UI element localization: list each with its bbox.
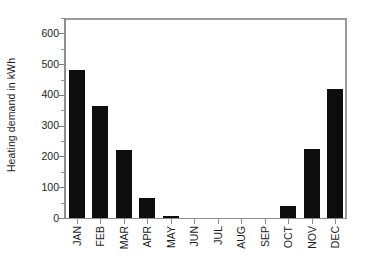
x-tick-label-text: OCT xyxy=(283,226,294,248)
x-tick-mark xyxy=(100,219,101,224)
x-tick-label-text: JUN xyxy=(189,226,200,246)
y-tick-label: 600 xyxy=(19,28,59,39)
x-tick-mark xyxy=(147,219,148,224)
x-tick-mark xyxy=(265,219,266,224)
x-tick-label-text: AUG xyxy=(236,226,247,249)
y-tick-label: 300 xyxy=(19,120,59,131)
bar-mar xyxy=(116,150,132,218)
x-tick-mark xyxy=(335,219,336,224)
x-tick-mark xyxy=(171,219,172,224)
y-axis-title-text: Heating demand in kWh xyxy=(5,58,17,172)
x-tick-label-jul: JUL xyxy=(211,226,225,262)
x-tick-label-text: DEC xyxy=(330,226,341,248)
x-tick-label-text: SEP xyxy=(260,226,271,247)
x-tick-label-text: JUL xyxy=(213,226,224,245)
bar-jan xyxy=(69,70,85,218)
y-tick-label: 500 xyxy=(19,59,59,70)
bars-group xyxy=(65,18,347,218)
x-tick-mark xyxy=(312,219,313,224)
bar-feb xyxy=(92,106,108,218)
x-tick-label-oct: OCT xyxy=(281,226,295,262)
x-tick-label-text: FEB xyxy=(95,226,106,246)
x-tick-label-mar: MAR xyxy=(117,226,131,262)
x-tick-mark xyxy=(124,219,125,224)
bar-may xyxy=(163,216,179,218)
x-tick-label-feb: FEB xyxy=(93,226,107,262)
x-tick-label-jun: JUN xyxy=(187,226,201,262)
x-tick-label-text: APR xyxy=(142,226,153,248)
x-tick-label-text: MAR xyxy=(119,226,130,249)
x-tick-label-dec: DEC xyxy=(328,226,342,262)
x-tick-label-nov: NOV xyxy=(305,226,319,262)
bar-apr xyxy=(139,198,155,218)
bar-dec xyxy=(327,89,343,218)
x-tick-mark xyxy=(77,219,78,224)
x-tick-label-aug: AUG xyxy=(234,226,248,262)
x-tick-label-sep: SEP xyxy=(258,226,272,262)
x-tick-label-apr: APR xyxy=(140,226,154,262)
x-tick-mark xyxy=(241,219,242,224)
x-tick-mark xyxy=(194,219,195,224)
bar-nov xyxy=(304,149,320,218)
y-tick-label: 200 xyxy=(19,151,59,162)
x-tick-label-text: MAY xyxy=(166,226,177,248)
x-tick-label-may: MAY xyxy=(164,226,178,262)
x-tick-mark xyxy=(218,219,219,224)
x-tick-label-text: JAN xyxy=(72,226,83,246)
y-tick-label: 400 xyxy=(19,89,59,100)
bar-chart: Heating demand in kWh 010020030040050060… xyxy=(0,0,367,264)
x-tick-mark xyxy=(288,219,289,224)
x-tick-label-text: NOV xyxy=(307,226,318,249)
y-tick-label: 0 xyxy=(19,213,59,224)
bar-oct xyxy=(280,206,296,218)
y-tick-label: 100 xyxy=(19,182,59,193)
x-tick-label-jan: JAN xyxy=(70,226,84,262)
